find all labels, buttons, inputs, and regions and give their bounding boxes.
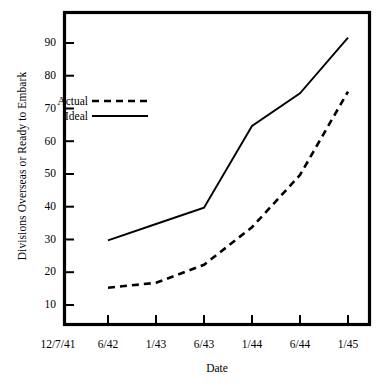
- plot-frame: [65, 13, 370, 325]
- series-line-actual: [108, 92, 348, 288]
- chart-figure: Divisions Overseas or Ready to Embark 90…: [0, 0, 383, 388]
- series-line-ideal: [108, 38, 348, 241]
- chart-plot-area: [0, 0, 383, 388]
